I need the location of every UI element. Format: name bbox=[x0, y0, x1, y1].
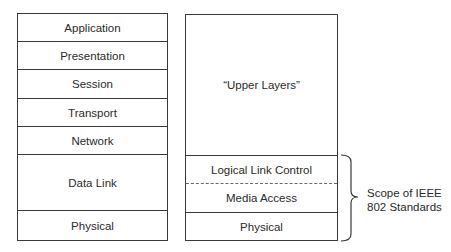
layer-application: Application bbox=[18, 14, 167, 41]
layer-physical: Physical bbox=[18, 210, 167, 240]
scope-brace-icon bbox=[338, 154, 366, 244]
upper-layers: “Upper Layers” bbox=[186, 15, 337, 155]
osi-model-stack: Application Presentation Session Transpo… bbox=[17, 13, 168, 241]
layer-logical-link-control: Logical Link Control bbox=[186, 155, 337, 183]
layer-media-access: Media Access bbox=[186, 183, 337, 212]
layer-session: Session bbox=[18, 69, 167, 98]
layer-presentation: Presentation bbox=[18, 41, 167, 69]
scope-label-line2: 802 Standards bbox=[367, 200, 442, 214]
layer-network: Network bbox=[18, 126, 167, 154]
layer-transport: Transport bbox=[18, 98, 167, 126]
layer-data-link: Data Link bbox=[18, 154, 167, 210]
layer-ieee-physical: Physical bbox=[186, 212, 337, 240]
scope-label-line1: Scope of IEEE bbox=[367, 186, 442, 200]
ieee-802-stack: “Upper Layers” Logical Link Control Medi… bbox=[185, 14, 338, 241]
scope-label: Scope of IEEE 802 Standards bbox=[367, 186, 442, 214]
